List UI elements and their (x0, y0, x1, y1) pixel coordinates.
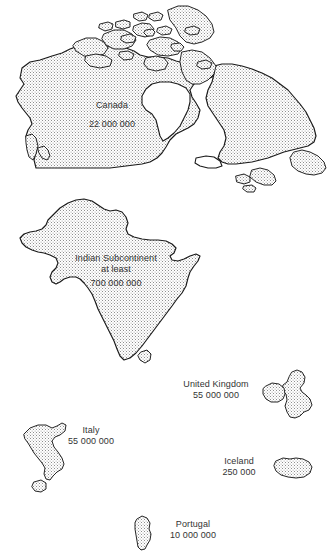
label-uk-population: 55 000 000 (172, 390, 260, 401)
label-canada-name: Canada (68, 100, 156, 111)
label-portugal-name: Portugal (155, 519, 231, 530)
label-iceland: Iceland 250 000 (210, 456, 268, 478)
label-india-qualifier: at least (56, 264, 176, 275)
label-canada: Canada 22 000 000 (68, 100, 156, 130)
label-india-name: Indian Subcontinent (56, 253, 176, 264)
portugal-map-shape (135, 516, 151, 550)
label-indian-subcontinent: Indian Subcontinent at least 700 000 000 (56, 253, 176, 289)
united-kingdom-map-shape (263, 370, 312, 418)
label-iceland-name: Iceland (210, 456, 268, 467)
label-iceland-population: 250 000 (210, 467, 268, 478)
population-map-figure: Canada 22 000 000 Indian Subcontinent at… (0, 0, 336, 558)
label-portugal: Portugal 10 000 000 (155, 519, 231, 541)
label-italy-name: Italy (52, 425, 130, 436)
iceland-map-shape (274, 458, 312, 478)
label-canada-population: 22 000 000 (68, 119, 156, 130)
label-portugal-population: 10 000 000 (155, 530, 231, 541)
label-italy-population: 55 000 000 (52, 436, 130, 447)
canada-map-shape (16, 6, 326, 192)
label-india-population: 700 000 000 (56, 278, 176, 289)
label-italy: Italy 55 000 000 (52, 425, 130, 447)
label-united-kingdom: United Kingdom 55 000 000 (172, 379, 260, 401)
label-uk-name: United Kingdom (172, 379, 260, 390)
